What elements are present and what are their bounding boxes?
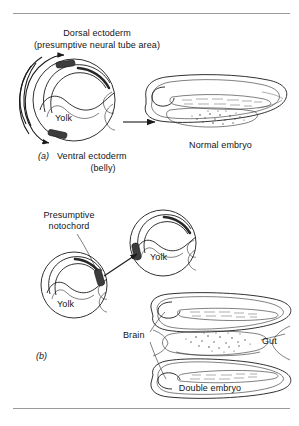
upper-embryo-outline [151,293,291,333]
dorsal-arc-donor [49,257,102,294]
tail-line-1 [262,92,283,99]
figure-artwork [0,0,299,426]
archenteron-donor-2 [52,290,94,299]
neural-texture-upper [190,312,257,317]
leader-gut [261,334,285,340]
brain-hook-normal [152,87,174,106]
egg-diagram-donor-b [41,234,107,318]
neural-tube-upper [178,308,278,320]
dorsal-arc-host [138,215,191,252]
brain-hook-lower [158,373,180,389]
embryology-figure: Dorsal ectoderm (presumptive neural tube… [0,0,299,426]
normal-embryo-drawing [145,75,287,127]
egg-fold-right2-a [105,104,115,130]
upper-embryo-inner [157,297,283,330]
graft-implanted-host [131,242,141,260]
waist-right-contour [272,326,290,360]
lower-embryo-outline [151,359,291,399]
graft-bar-dorsal-a [56,60,76,69]
waist-left-contour [153,330,168,356]
double-embryo-drawing [150,293,291,399]
egg-fold-right-a [103,92,114,113]
neural-tube-lower [178,370,278,382]
egg-outline-donor [41,252,107,318]
archenteron-curve2-a [47,106,99,119]
archenteron-host-2 [141,248,183,257]
neural-tube-texture [182,99,262,106]
egg-diagram-host-b [130,210,196,276]
egg-diagram-panel-a [19,55,115,143]
yolk-stipple-double [185,332,250,352]
lower-embryo-inner [157,362,283,395]
neural-texture-lower [190,374,257,379]
shared-yolk-gut-mass [162,331,267,355]
egg-outline-host [130,210,196,276]
transplant-arrow-b [104,254,137,276]
